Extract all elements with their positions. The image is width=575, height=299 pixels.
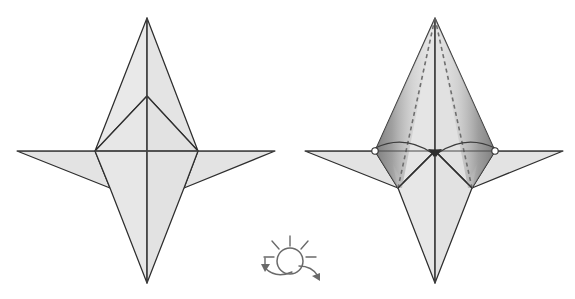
pivot-marker-right <box>492 148 498 154</box>
right-wing <box>184 151 275 188</box>
turn-over-ray-upper-right <box>301 241 308 249</box>
turn-over-icon <box>261 236 320 281</box>
lower-body-right <box>147 151 198 283</box>
origami-diagram: Origami step: fold flaps to center and t… <box>0 0 575 299</box>
figure-after <box>305 18 563 283</box>
figure-before <box>17 18 275 283</box>
turn-over-ray-upper-left <box>272 241 279 249</box>
lower-body-left <box>95 151 147 283</box>
diagram-canvas <box>0 0 575 299</box>
left-wing <box>17 151 110 188</box>
turn-over-icon-circle <box>277 248 303 274</box>
pivot-marker-left <box>372 148 378 154</box>
